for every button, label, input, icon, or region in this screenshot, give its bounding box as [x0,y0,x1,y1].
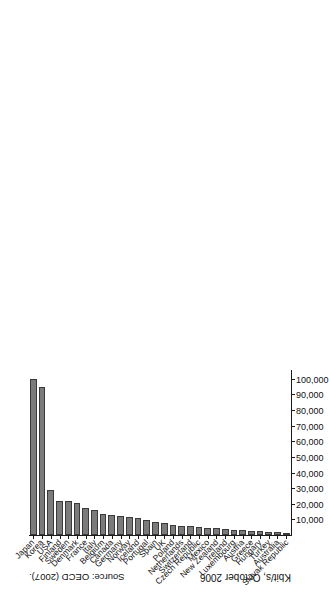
category-tick [147,535,148,539]
bar [108,515,115,535]
value-tick [291,426,295,427]
source-note: Source: OECD (2007). [29,573,125,583]
category-tick [103,535,104,539]
category-tick [260,535,261,539]
bar [126,517,133,535]
value-tick [291,519,295,520]
category-tick [129,535,130,539]
category-tick [208,535,209,539]
bar-row [29,370,38,535]
bar-series [29,370,291,535]
bar [196,527,203,535]
value-tick-label: 10,000 [296,516,324,525]
bar-row [186,370,195,535]
bar-row [151,370,160,535]
bar [30,379,37,535]
category-tick [173,535,174,539]
bar-row [55,370,64,535]
value-tick [291,379,295,380]
category-tick [216,535,217,539]
bar [152,522,159,535]
bar [56,501,63,535]
value-tick-label: 70,000 [296,423,324,432]
plot-area [29,370,291,536]
value-axis-line [291,370,292,536]
bar-row [46,370,55,535]
value-tick-label: 100,000 [296,376,329,385]
value-tick [291,441,295,442]
bar [65,501,72,535]
bar-row [247,370,256,535]
bar [117,516,124,535]
bar [74,503,81,535]
bar [135,518,142,535]
bar [187,526,194,535]
bar-row [116,370,125,535]
category-tick [68,535,69,539]
bar-chart-figure: Kbit/s, October 2006 Source: OECD (2007)… [21,0,299,592]
value-tick [291,394,295,395]
category-tick [33,535,34,539]
category-tick [277,535,278,539]
bar [204,528,211,535]
bar-row [264,370,273,535]
category-tick [234,535,235,539]
value-tick-label: 90,000 [296,391,324,400]
bar [39,387,46,535]
value-tick [291,488,295,489]
category-tick [225,535,226,539]
value-tick [291,473,295,474]
bar-row [125,370,134,535]
bar-row [212,370,221,535]
category-tick [42,535,43,539]
bar-row [238,370,247,535]
bar-row [99,370,108,535]
category-tick [155,535,156,539]
category-tick [121,535,122,539]
value-tick [291,504,295,505]
bar-row [38,370,47,535]
category-tick [251,535,252,539]
bar-row [221,370,230,535]
category-tick [60,535,61,539]
category-tick [190,535,191,539]
bar [170,525,177,535]
category-tick [112,535,113,539]
category-tick [243,535,244,539]
bar [161,523,168,535]
bar-row [256,370,265,535]
value-tick-label: 40,000 [296,470,324,479]
bar-row [230,370,239,535]
bar-row [73,370,82,535]
category-tick [94,535,95,539]
bar-row [81,370,90,535]
category-tick [269,535,270,539]
bar [100,514,107,535]
bar-row [107,370,116,535]
bar [143,520,150,535]
value-tick-label: 50,000 [296,454,324,463]
value-tick-label: 30,000 [296,485,324,494]
category-tick [286,535,287,539]
bar-row [282,370,291,535]
category-tick [77,535,78,539]
category-tick [182,535,183,539]
bar-row [177,370,186,535]
bar-row [64,370,73,535]
category-tick [138,535,139,539]
bar-row [134,370,143,535]
bar-row [169,370,178,535]
value-tick [291,457,295,458]
bar [82,508,89,535]
value-tick-label: 60,000 [296,438,324,447]
category-tick [86,535,87,539]
bar-row [142,370,151,535]
value-tick [291,410,295,411]
bar [47,490,54,535]
value-tick-label: 20,000 [296,501,324,510]
bar-row [273,370,282,535]
bar [91,510,98,535]
figure-rotation-wrapper: Kbit/s, October 2006 Source: OECD (2007)… [21,0,299,592]
bar-row [160,370,169,535]
category-tick [51,535,52,539]
